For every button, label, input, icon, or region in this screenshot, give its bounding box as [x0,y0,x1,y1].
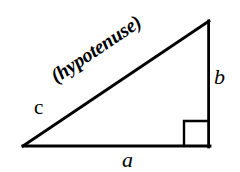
label-side-a: a [122,149,133,171]
right-triangle-figure: c a b (hypotenuse) [0,0,240,172]
label-side-b: b [214,66,225,88]
right-angle-marker-icon [184,121,208,146]
label-side-c: c [34,97,43,118]
